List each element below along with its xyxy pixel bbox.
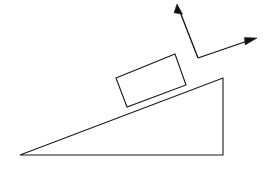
vector-up-right-shaft [198, 42, 246, 59]
vector-up-left-arrowhead [174, 4, 183, 14]
vector-up-left-shaft [180, 11, 199, 59]
vector-up-left [174, 4, 198, 58]
diagram-root [0, 0, 263, 171]
vector-up-right-arrowhead [244, 38, 257, 45]
vector-up-right [198, 38, 257, 58]
physics-diagram-canvas [0, 0, 263, 171]
